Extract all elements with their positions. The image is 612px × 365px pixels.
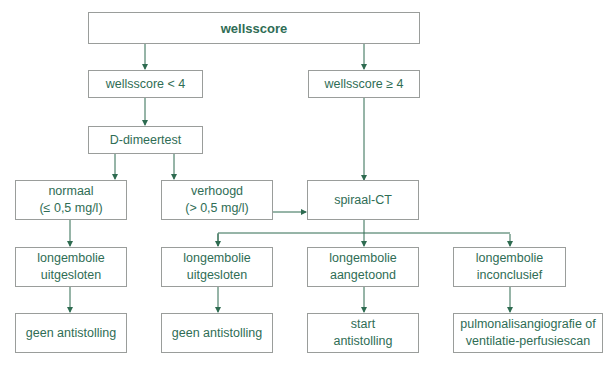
node-d-dimer-test: D-dimeertest bbox=[88, 126, 203, 154]
node-pe-excluded-mid: longembolie uitgesloten bbox=[161, 247, 273, 287]
node-wellsscore-low: wellsscore < 4 bbox=[88, 70, 203, 98]
node-pe-inconclusive: longembolie inconclusief bbox=[453, 247, 566, 287]
node-pe-excluded-left: longembolie uitgesloten bbox=[15, 247, 127, 287]
node-no-anticoagulation-left: geen antistolling bbox=[15, 313, 127, 353]
node-wellsscore: wellsscore bbox=[88, 12, 420, 44]
node-pe-confirmed: longembolie aangetoond bbox=[307, 247, 419, 287]
node-spiral-ct: spiraal-CT bbox=[307, 180, 419, 220]
node-normal: normaal (≤ 0,5 mg/l) bbox=[15, 180, 127, 220]
node-start-anticoagulation: start antistolling bbox=[307, 313, 419, 353]
node-no-anticoagulation-mid: geen antistolling bbox=[161, 313, 273, 353]
node-elevated: verhoogd (> 0,5 mg/l) bbox=[161, 180, 273, 220]
node-wellsscore-high: wellsscore ≥ 4 bbox=[308, 70, 420, 98]
node-further-imaging: pulmonalisangiografie of ventilatie-perf… bbox=[453, 313, 603, 353]
